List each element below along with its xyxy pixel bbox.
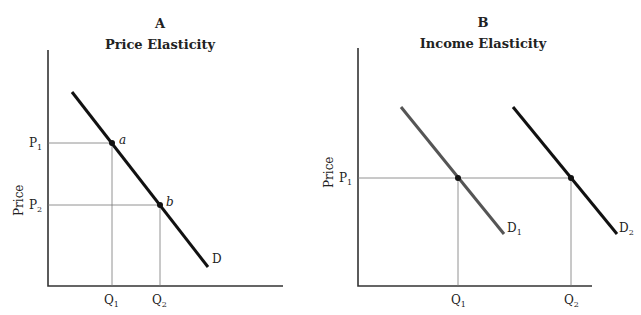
panel-a-letter: A [155,16,165,31]
panel-a-y-axis-label: Price [12,185,26,216]
panel-b-demand-d2 [513,107,617,234]
panel-a-axes [48,50,283,286]
panel-b-axes [358,48,592,286]
panel-a-q2-label: Q2 [152,294,167,309]
panel-a-p1-label: P1 [29,137,42,152]
panel-b-point-d1 [455,175,461,181]
panel-a-curve-label: D [212,253,222,265]
panel-b-title: Income Elasticity [420,36,547,51]
panel-b-letter: B [478,15,489,30]
panel-b-p1-label: P1 [339,172,352,187]
panel-a-point-a [109,140,115,146]
panel-a-q1-label: Q1 [104,294,119,309]
panel-b-d2-label: D2 [619,222,634,237]
panel-b-q2-label: Q2 [564,294,579,309]
panel-a-p2-label: P2 [29,199,42,214]
panel-a-demand-curve [72,92,208,267]
panel-b-q1-label: Q1 [451,294,466,309]
panel-b-y-axis-label: Price [322,157,336,188]
panel-b-point-d2 [568,175,574,181]
panel-b-graph [358,48,617,286]
panel-b-demand-d1 [401,107,504,234]
panel-b-d1-label: D1 [507,222,522,237]
panel-a-title: Price Elasticity [105,37,215,52]
panel-a-point-b [157,202,163,208]
panel-a-point-b-label: b [166,196,174,208]
panel-a-point-a-label: a [119,134,126,146]
panel-a-graph [48,50,283,286]
